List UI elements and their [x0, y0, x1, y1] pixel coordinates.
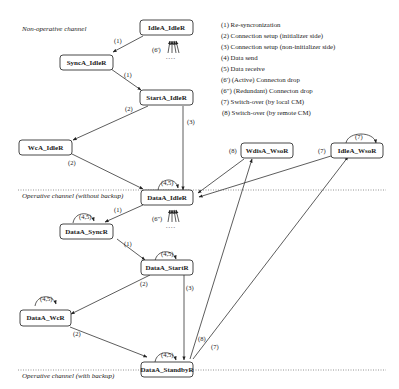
edge-label: (1) [114, 37, 122, 45]
node-wdisa-wsor: WdisA_WsoR [241, 143, 293, 158]
edge-wc-to-dataidle [72, 154, 143, 189]
edge-label: (4,5) [40, 295, 52, 303]
edge-label: (6') [152, 46, 161, 54]
redundant-drop-arrows: (6") .... [152, 210, 179, 229]
legend-item: (6") (Redundant) Connecton drop [221, 87, 313, 95]
node-idlea-idler: IdleA_IdleR [140, 20, 193, 35]
node-starta-idler: StartA_IdleR [140, 90, 193, 105]
legend-item: (6') (Active) Connecton drop [221, 76, 300, 84]
node-label: IdleA_WsoR [338, 147, 377, 155]
legend-item: (5) Data receive [221, 65, 265, 73]
legend-item: (7) Switch-over (by local CM) [221, 98, 304, 106]
section-label-operative-with-backup: Operative channel (with backup) [22, 372, 115, 380]
legend-item: (2) Connection setup (initializer side) [221, 32, 323, 40]
edge-label: (2) [140, 280, 148, 288]
node-label: DataA_WcR [26, 314, 65, 322]
edge-dataidle-to-syncr [105, 205, 143, 222]
edge-standby-to-wdis [190, 159, 252, 359]
edge-label: (4,5) [161, 250, 173, 258]
edge-label: (8) [198, 335, 206, 343]
edge-label: (7) [318, 147, 326, 155]
node-dataa-wcr: DataA_WcR [20, 310, 71, 326]
edge-label: (1) [124, 240, 132, 248]
edge-standby-to-idlewso [193, 157, 348, 359]
edge-label: (1) [114, 206, 122, 214]
edge-label: (4,5) [79, 213, 91, 221]
node-label: DataA_IdleR [147, 194, 188, 202]
edge-startr-to-wcr [71, 275, 150, 314]
edge-start-to-wc [73, 106, 148, 140]
node-dataa-syncr: DataA_SyncR [60, 224, 113, 239]
edge-wcr-to-standby [70, 327, 147, 357]
dots: .... [166, 223, 176, 229]
edge-label: (4,5) [161, 351, 173, 359]
node-dataa-startr: DataA_StartR [141, 260, 193, 275]
legend: (1) Re-syncronization (2) Connection set… [221, 21, 335, 117]
edge-label: (7) [211, 343, 219, 351]
edge-label: (2) [73, 330, 81, 338]
edge-label: (2) [68, 159, 76, 167]
edge-idlewso-to-dataidle [199, 156, 331, 197]
edge-label: (7) [355, 133, 363, 141]
node-label: DataA_StartR [145, 264, 189, 272]
node-label: DataA_StandbyR [141, 366, 195, 374]
edge-label: (2) [125, 105, 133, 113]
active-drop-arrows: (6') .... [152, 41, 179, 60]
legend-item: (4) Data send [221, 54, 258, 62]
section-label-non-operative: Non-operative channel [21, 25, 86, 33]
node-label: IdleA_IdleR [148, 24, 186, 32]
node-label: DataA_SyncR [65, 228, 108, 236]
legend-item: (3) Connection setup (non-initializer si… [221, 43, 335, 51]
legend-item: (8) Switch-over (by remote CM) [222, 109, 311, 117]
edge-wdis-to-dataidle [198, 159, 244, 193]
edge-label: (1) [124, 71, 132, 79]
node-label: SyncA_IdleR [67, 59, 108, 67]
edge-label: (3) [186, 284, 194, 292]
node-dataa-idler: DataA_IdleR [141, 190, 193, 205]
dots: .... [166, 54, 176, 60]
state-transition-diagram: Non-operative channel Operative channel … [0, 0, 399, 389]
edge-label: (6") [152, 215, 162, 223]
node-synca-idler: SyncA_IdleR [60, 55, 113, 70]
edge-label: (8) [229, 147, 237, 155]
node-label: WcA_IdleR [28, 144, 64, 152]
node-label: StartA_IdleR [146, 94, 187, 102]
node-dataa-standbyr: DataA_StandbyR [141, 362, 195, 377]
edge-label: (4,5) [161, 179, 173, 187]
legend-item: (1) Re-syncronization [221, 21, 281, 29]
node-idlea-wsor: IdleA_WsoR [331, 143, 383, 158]
section-label-operative-without-backup: Operative channel (without backup) [22, 192, 124, 200]
node-label: WdisA_WsoR [246, 147, 289, 155]
node-wca-idler: WcA_IdleR [19, 140, 72, 155]
edge-label: (3) [187, 118, 195, 126]
